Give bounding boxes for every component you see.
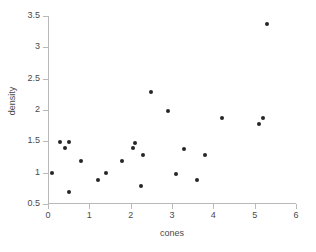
x-tick-label: 5 — [243, 210, 267, 221]
x-tick-mark — [296, 204, 297, 209]
x-tick-mark — [213, 204, 214, 209]
data-point — [195, 178, 199, 182]
x-tick-mark — [131, 204, 132, 209]
y-axis-label: density — [7, 71, 17, 131]
data-point — [131, 146, 135, 150]
y-tick-label: 0.5 — [8, 199, 40, 208]
y-tick-label: 3 — [8, 42, 40, 51]
x-tick-label: 1 — [77, 210, 101, 221]
y-tick-mark — [43, 110, 48, 111]
x-axis-label: cones — [48, 228, 296, 238]
data-point — [220, 116, 224, 120]
y-tick-mark — [43, 79, 48, 80]
x-tick-label: 2 — [119, 210, 143, 221]
x-tick-label: 3 — [160, 210, 184, 221]
y-tick-label: 1.5 — [8, 136, 40, 145]
data-point — [96, 178, 100, 182]
y-tick-mark — [43, 204, 48, 205]
y-tick-mark — [43, 141, 48, 142]
data-point — [67, 190, 71, 194]
x-tick-label: 6 — [284, 210, 308, 221]
y-tick-mark — [43, 16, 48, 17]
x-tick-label: 0 — [36, 210, 60, 221]
plot-area — [48, 16, 296, 204]
y-tick-label: 1 — [8, 168, 40, 177]
data-point — [79, 159, 83, 163]
x-tick-label: 4 — [201, 210, 225, 221]
scatter-chart: 0123456 0.511.522.533.5 cones density — [0, 0, 316, 252]
data-point — [174, 172, 178, 176]
x-tick-mark — [48, 204, 49, 209]
x-tick-mark — [172, 204, 173, 209]
y-tick-label: 3.5 — [8, 11, 40, 20]
data-point — [67, 140, 71, 144]
data-point — [104, 171, 108, 175]
data-point — [139, 184, 143, 188]
x-tick-mark — [89, 204, 90, 209]
data-point — [133, 141, 137, 145]
data-point — [50, 171, 54, 175]
data-point — [63, 146, 67, 150]
y-tick-mark — [43, 173, 48, 174]
y-tick-mark — [43, 47, 48, 48]
x-tick-mark — [255, 204, 256, 209]
data-point — [261, 116, 265, 120]
